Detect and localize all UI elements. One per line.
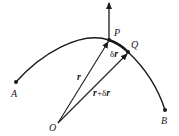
point-B	[163, 108, 167, 112]
label-P: P	[113, 27, 120, 38]
label-r-plus-dr: r+δr	[93, 87, 110, 98]
point-A	[14, 80, 18, 84]
label-A: A	[10, 88, 18, 99]
point-Q	[126, 50, 130, 54]
label-O: O	[49, 122, 56, 133]
label-Q: Q	[131, 39, 139, 50]
curve-diagram: A B P Q O r δr r+δr	[0, 0, 179, 136]
vector-r	[58, 42, 108, 123]
curve-path	[16, 38, 165, 110]
label-B: B	[161, 115, 167, 126]
label-r: r	[77, 71, 81, 82]
label-dr: δr	[110, 48, 118, 59]
point-P	[107, 38, 111, 42]
